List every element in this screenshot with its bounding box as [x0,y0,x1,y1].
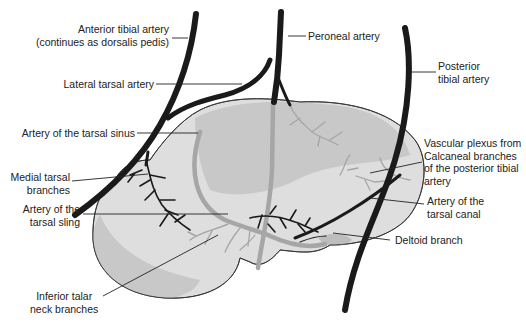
label-line: Artery of the tarsal sinus [22,127,135,140]
label-line: Vascular plexus from [424,137,521,150]
label-line: branches [10,184,70,197]
label-anterior-tibial-artery: Anterior tibial artery (continues as dor… [36,23,169,48]
label-line: Medial tarsal [10,171,70,184]
label-line: Inferior talar [30,290,98,303]
label-line: neck branches [30,303,98,316]
label-line: Deltoid branch [395,234,463,247]
label-peroneal-artery: Peroneal artery [308,30,380,43]
label-vascular-plexus: Vascular plexus from Calcaneal branches … [424,137,521,187]
label-line: Lateral tarsal artery [64,78,154,91]
label-artery-tarsal-sling: Artery of the tarsal sling [23,203,80,228]
label-posterior-tibial-artery: Posterior tibial artery [438,60,489,85]
label-line: tarsal sling [23,216,80,229]
label-line: (continues as dorsalis pedis) [36,36,169,49]
label-line: Anterior tibial artery [36,23,169,36]
label-line: tarsal canal [427,208,484,221]
label-deltoid-branch: Deltoid branch [395,234,463,247]
label-line: Posterior [438,60,489,73]
peroneal-artery [274,12,281,102]
label-line: Calcaneal branches [424,150,521,163]
label-lateral-tarsal-artery: Lateral tarsal artery [64,78,154,91]
label-line: Peroneal artery [308,30,380,43]
label-line: of the posterior tibial [424,162,521,175]
label-inferior-talar-neck-branches: Inferior talar neck branches [30,290,98,315]
label-artery-tarsal-sinus: Artery of the tarsal sinus [22,127,135,140]
label-artery-tarsal-canal: Artery of the tarsal canal [427,195,484,220]
label-line: Artery of the [427,195,484,208]
label-line: Artery of the [23,203,80,216]
label-line: tibial artery [438,73,489,86]
label-line: artery [424,175,521,188]
label-medial-tarsal-branches: Medial tarsal branches [10,171,70,196]
